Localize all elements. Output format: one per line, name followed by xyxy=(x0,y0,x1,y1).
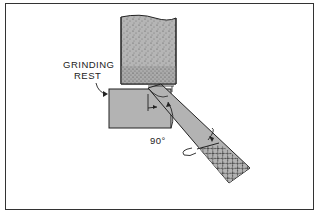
drill-bit xyxy=(148,84,250,183)
label-angle: 90° xyxy=(150,135,166,146)
grinding-wheel xyxy=(121,15,176,84)
rest-leader-arrow xyxy=(96,83,108,97)
label-grinding: GRINDING xyxy=(63,59,115,70)
label-rest: REST xyxy=(74,70,101,81)
drill-grinding-diagram: GRINDING REST 90° xyxy=(0,0,318,216)
